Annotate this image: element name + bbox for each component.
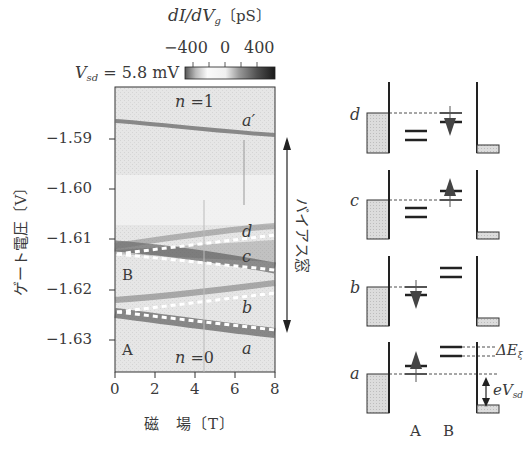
label-c: c xyxy=(242,247,251,266)
dot-label-A: A xyxy=(410,422,421,440)
colorbar-tick-neg400: −400 xyxy=(164,38,208,57)
colorbar xyxy=(185,62,275,79)
colorbar-title-unit: 〔pS〕 xyxy=(221,7,271,25)
delta-e-text: ΔE xyxy=(496,341,518,359)
energy-diagram-b xyxy=(367,256,499,326)
x-axis-label: 磁 場〔T〕 xyxy=(144,412,235,433)
colorbar-title: dI/dVg〔pS〕 xyxy=(168,4,271,26)
evsd-label: eVsd xyxy=(493,381,523,400)
colorbar-ticks xyxy=(193,62,257,67)
x-tick-6: 6 xyxy=(230,380,240,398)
diagram-label-b: b xyxy=(350,278,360,297)
x-tick-2: 2 xyxy=(150,380,160,398)
bias-window-label: バイアス窓 xyxy=(293,191,314,281)
colorbar-title-main: dI/dV xyxy=(168,5,214,25)
x-tick-4: 4 xyxy=(190,380,200,398)
delta-e-subscript: ξ xyxy=(518,350,523,360)
evsd-text: eV xyxy=(493,381,513,399)
diagram-label-d: d xyxy=(350,105,360,124)
energy-diagram-c xyxy=(367,170,499,239)
colorbar-tick-400: 400 xyxy=(244,38,275,57)
vsd-label: Vsd = 5.8 mV xyxy=(75,63,179,83)
label-b: b xyxy=(242,298,252,317)
y-tick-1.60: −1.60 xyxy=(46,179,92,197)
colorbar-tick-0: 0 xyxy=(220,38,230,57)
evsd-subscript: sd xyxy=(513,390,523,400)
y-tick-1.62: −1.62 xyxy=(46,280,92,298)
vsd-value: = 5.8 mV xyxy=(98,63,179,82)
x-tick-0: 0 xyxy=(110,380,120,398)
label-a-prime: a′ xyxy=(242,111,255,130)
label-dot-A: A xyxy=(122,341,133,359)
dot-label-B: B xyxy=(443,422,454,440)
diagram-label-a: a xyxy=(350,364,360,383)
energy-diagram-a xyxy=(367,342,499,413)
evsd-arrow xyxy=(482,377,490,407)
x-tick-8: 8 xyxy=(270,380,280,398)
label-d: d xyxy=(242,222,252,241)
energy-diagram-d xyxy=(367,82,499,153)
y-tick-1.61: −1.61 xyxy=(46,229,92,247)
vsd-symbol: V xyxy=(75,63,87,82)
x-axis-ticks xyxy=(115,372,275,378)
label-n1: n =1 xyxy=(175,92,214,111)
y-axis-label: ゲート電圧〔V〕 xyxy=(9,186,30,296)
y-axis-ticks xyxy=(109,139,115,340)
label-dot-B: B xyxy=(122,266,133,284)
label-a: a xyxy=(242,339,252,358)
diagram-label-c: c xyxy=(350,191,359,210)
vsd-subscript: sd xyxy=(87,72,99,83)
delta-e-label: ΔEξ xyxy=(496,341,523,360)
y-tick-1.59: −1.59 xyxy=(46,129,92,147)
bias-window-arrow xyxy=(283,137,291,333)
y-tick-1.63: −1.63 xyxy=(46,330,92,348)
label-n0: n =0 xyxy=(175,348,214,367)
